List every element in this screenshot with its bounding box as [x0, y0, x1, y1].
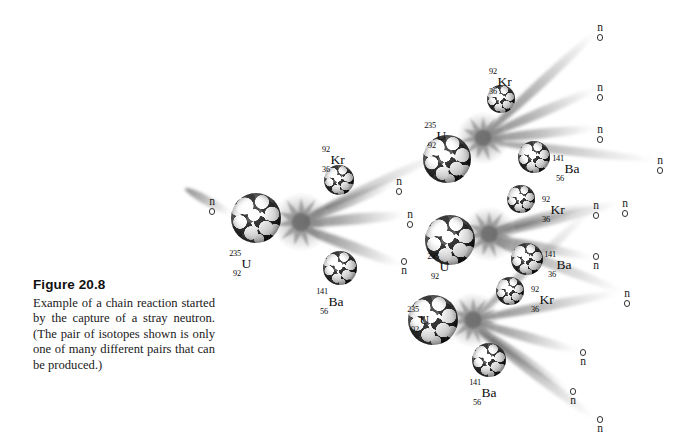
fission-flash [272, 193, 330, 251]
nuclide-numbers: 9236 [482, 68, 497, 95]
neutron-label-n-g3-h: n [620, 288, 634, 307]
neutron-ray [486, 123, 599, 144]
nuclide-label-ba-2: 14156Ba [549, 155, 580, 182]
neutron-symbol: n [403, 209, 417, 221]
atomic-number: 56 [466, 399, 481, 408]
neutron-ray [303, 209, 409, 229]
nuclide-label-u-4: 23592U [404, 306, 429, 333]
neutron-symbol: n [593, 82, 607, 94]
mass-number: 235 [424, 253, 439, 262]
atomic-number: 92 [404, 326, 419, 335]
neutron-symbol: n [593, 124, 607, 136]
element-symbol: Ba [565, 162, 580, 176]
atomic-number: 36 [315, 166, 330, 175]
neutron-symbol: n [593, 423, 607, 435]
neutron-label-n-g3-k: n [593, 416, 607, 435]
mass-number: 92 [482, 68, 497, 77]
neutron-dot-icon [597, 136, 604, 143]
neutron-label-n-g3-f: n [589, 253, 603, 272]
element-symbol: Kr [331, 153, 345, 167]
neutron-dot-icon [396, 188, 403, 195]
neutron-dot-icon [407, 221, 414, 228]
neutron-label-n-g2-a: n [392, 176, 406, 195]
neutron-label-n-g2-b: n [403, 209, 417, 228]
neutron-symbol: n [620, 288, 634, 300]
atomic-number: 56 [313, 308, 328, 317]
nuclide-label-ba-3: 14136Ba [541, 251, 572, 278]
atomic-number: 36 [541, 271, 556, 280]
nuclide-label-u-2: 23592U [421, 122, 446, 149]
figure-caption: Figure 20.8 Example of a chain reaction … [33, 277, 215, 373]
nuclide-label-kr-2: 9236Kr [482, 68, 512, 95]
element-symbol: Ba [329, 295, 344, 309]
nuclide-numbers: 9236 [524, 286, 539, 313]
element-symbol: U [420, 313, 430, 327]
neutron-symbol: n [566, 395, 580, 407]
atomic-number: 92 [421, 142, 436, 151]
neutron-label-n-g3-d: n [653, 155, 667, 174]
neutron-dot-icon [624, 300, 631, 307]
nuclide-label-kr-1: 9236Kr [315, 146, 345, 173]
element-symbol: U [437, 129, 447, 143]
neutron-label-n-g3-j: n [566, 388, 580, 407]
nucleus-ba-1 [323, 251, 357, 285]
nuclide-numbers: 23592 [226, 250, 241, 277]
neutron-symbol: n [205, 196, 219, 208]
mass-number: 141 [549, 155, 564, 164]
nuclide-numbers: 14156 [313, 288, 328, 315]
mass-number: 92 [535, 196, 550, 205]
nuclide-label-kr-3: 9236Kr [535, 196, 565, 223]
neutron-label-n-g3-b: n [593, 82, 607, 101]
neutron-dot-icon [657, 167, 664, 174]
nuclide-numbers: 14156 [466, 379, 481, 406]
mass-number: 92 [315, 146, 330, 155]
atomic-number: 56 [549, 175, 564, 184]
nuclide-label-ba-4: 14156Ba [466, 379, 497, 406]
flash-glow [272, 193, 330, 251]
element-symbol: U [242, 257, 252, 271]
atomic-number: 36 [524, 306, 539, 315]
neutron-symbol: n [653, 155, 667, 167]
neutron-label-n-g3-i: n [576, 349, 590, 368]
figure-caption-text: Example of a chain reaction started by t… [33, 296, 215, 373]
neutron-label-n-stray: n [205, 196, 219, 215]
element-symbol: Kr [540, 293, 554, 307]
neutron-symbol: n [576, 356, 590, 368]
neutron-dot-icon [209, 208, 216, 215]
nuclide-numbers: 23592 [421, 122, 436, 149]
neutron-symbol: n [397, 265, 411, 277]
element-symbol: Ba [557, 258, 572, 272]
element-symbol: Ba [482, 386, 497, 400]
nucleus-ba-3 [511, 243, 543, 275]
nuclide-label-ba-1: 14156Ba [313, 288, 344, 315]
neutron-symbol: n [392, 176, 406, 188]
nucleus-kr-4 [496, 277, 524, 305]
neutron-symbol: n [593, 22, 607, 34]
atomic-number: 92 [424, 273, 439, 282]
neutron-dot-icon [597, 94, 604, 101]
mass-number: 92 [524, 286, 539, 295]
nucleus-ba-2 [518, 141, 550, 173]
neutron-dot-icon [622, 210, 629, 217]
neutron-label-n-g2-c: n [397, 258, 411, 277]
nuclide-numbers: 9236 [535, 196, 550, 223]
neutron-symbol: n [589, 200, 603, 212]
mass-number: 235 [226, 250, 241, 259]
atomic-number: 92 [226, 270, 241, 279]
atomic-number: 36 [482, 88, 497, 97]
nuclide-numbers: 14136 [541, 251, 556, 278]
element-symbol: U [440, 260, 450, 274]
nuclide-numbers: 23592 [424, 253, 439, 280]
nuclide-numbers: 14156 [549, 155, 564, 182]
mass-number: 235 [421, 122, 436, 131]
flash-star [272, 193, 330, 251]
nuclide-numbers: 9236 [315, 146, 330, 173]
nucleus-kr-3 [507, 185, 535, 213]
neutron-label-n-g3-c: n [593, 124, 607, 143]
nucleus-u-1 [231, 193, 281, 243]
neutron-dot-icon [593, 212, 600, 219]
figure-canvas: 23592U9236Kr14156Ba23592U9236Kr14156Ba23… [0, 0, 691, 438]
nuclide-label-kr-4: 9236Kr [524, 286, 554, 313]
neutron-dot-icon [597, 34, 604, 41]
neutron-symbol: n [618, 198, 632, 210]
